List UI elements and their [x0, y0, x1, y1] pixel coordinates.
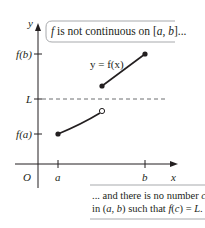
lower-segment — [58, 113, 100, 134]
filled-dot-upper-start — [99, 83, 104, 88]
open-circle — [99, 108, 104, 113]
origin-label: O — [23, 171, 31, 183]
callout-bottom-line-2: in (a, b) such that f(c) = L. — [92, 202, 205, 215]
filled-dot-fb — [142, 51, 147, 56]
curve-label: y = f(x) — [90, 58, 124, 71]
callout-bottom-text: ... and there is no number c in (a, b) s… — [92, 189, 205, 215]
filled-dot-fa — [55, 131, 60, 136]
callout-bottom-line-1: ... and there is no number c — [92, 189, 205, 202]
y-tick-L-label: L — [25, 93, 32, 105]
y-axis-label: y — [27, 17, 33, 29]
x-axis-label: x — [170, 171, 176, 183]
y-axis-arrow-icon — [35, 23, 41, 31]
callout-top-text: f is not continuous on [a, b]... — [51, 24, 186, 38]
x-tick-a-label: a — [55, 171, 61, 183]
x-tick-b-label: b — [142, 171, 148, 183]
y-tick-fa-label: f(a) — [16, 128, 32, 141]
y-tick-fb-label: f(b) — [16, 48, 32, 61]
x-axis-arrow-icon — [170, 161, 178, 167]
